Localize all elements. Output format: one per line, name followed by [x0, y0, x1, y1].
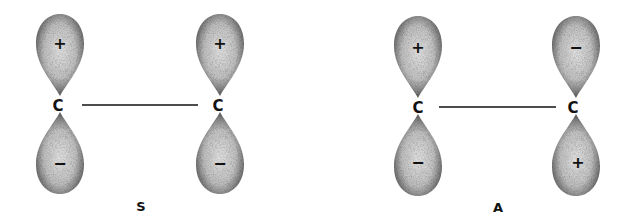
atom-symbol: C — [212, 97, 223, 115]
panel-label: A — [493, 200, 503, 215]
top-lobe-sign: + — [411, 38, 424, 57]
atom-symbol: C — [52, 97, 63, 115]
bottom-lobe-sign: − — [53, 154, 66, 173]
orbital-diagram: + − C + − C S + − C − + C A — [0, 0, 632, 224]
top-lobe-sign: − — [569, 38, 582, 57]
panel-label: S — [136, 199, 145, 214]
atom-symbol: C — [412, 99, 423, 117]
p-orbital-top-lobe — [552, 16, 600, 98]
panel-s: + − C + − C S — [36, 14, 244, 214]
atom-symbol: C — [567, 99, 578, 117]
p-orbital-top-lobe — [36, 14, 84, 96]
panel-a: + − C − + C A — [394, 16, 600, 215]
p-orbital-top-lobe — [394, 16, 442, 98]
atom-s-right: + − C — [196, 14, 244, 194]
p-orbital-bottom-lobe — [36, 112, 84, 194]
bottom-lobe-sign: − — [411, 153, 424, 172]
top-lobe-sign: + — [53, 34, 66, 53]
atom-a-right: − + C — [552, 16, 600, 196]
atom-a-left: + − C — [394, 16, 442, 196]
p-orbital-top-lobe — [196, 14, 244, 96]
atom-s-left: + − C — [36, 14, 84, 194]
top-lobe-sign: + — [213, 34, 226, 53]
p-orbital-bottom-lobe — [196, 112, 244, 194]
bottom-lobe-sign: − — [213, 154, 226, 173]
bottom-lobe-sign: + — [571, 153, 584, 172]
